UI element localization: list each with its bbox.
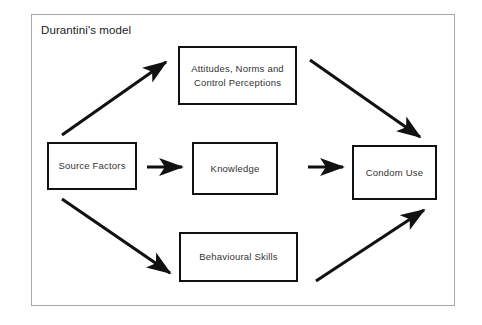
node-label: Condom Use: [366, 166, 423, 180]
node-condom-use[interactable]: Condom Use: [352, 145, 437, 200]
node-label: Knowledge: [211, 162, 260, 176]
figure-canvas: Durantini's model Attitudes, Norms and C…: [0, 0, 482, 325]
diagram-title: Durantini's model: [41, 24, 131, 36]
node-source-factors[interactable]: Source Factors: [47, 142, 137, 190]
node-attitudes-norms-control-perceptions[interactable]: Attitudes, Norms and Control Perceptions: [178, 46, 297, 105]
node-label: Behavioural Skills: [199, 250, 278, 264]
node-label: Source Factors: [58, 159, 125, 173]
node-knowledge[interactable]: Knowledge: [192, 142, 278, 195]
node-behavioural-skills[interactable]: Behavioural Skills: [179, 232, 298, 282]
node-label: Attitudes, Norms and Control Perceptions: [191, 62, 284, 90]
